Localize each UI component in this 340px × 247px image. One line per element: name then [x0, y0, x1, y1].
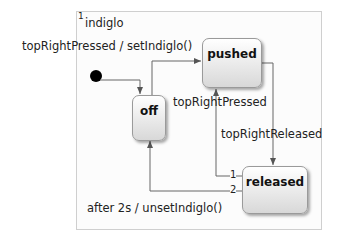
state-label: pushed [207, 47, 257, 61]
state-label: released [246, 175, 304, 189]
transition-label-off-pushed: topRightPressed / setIndiglo() [22, 39, 192, 53]
state-pushed[interactable]: pushed [202, 38, 262, 88]
priority-1: 1 [230, 169, 236, 180]
transition-label-released-pushed: topRightPressed [173, 95, 267, 109]
state-label: off [140, 104, 158, 118]
priority-2: 2 [230, 184, 236, 195]
transition-label-released-off: after 2s / unsetIndiglo() [87, 201, 222, 215]
transition-label-pushed-released: topRightReleased [221, 127, 322, 141]
state-released[interactable]: released [242, 166, 308, 214]
state-off[interactable]: off [132, 95, 166, 141]
